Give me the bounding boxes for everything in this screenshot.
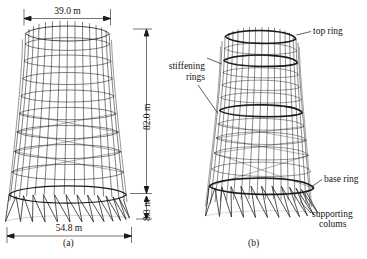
stiffening-ring-upper — [224, 55, 298, 67]
cooling-tower-figure — [0, 0, 367, 259]
tower-a-wireframe — [6, 21, 130, 222]
dim-label-top-diameter: 39.0 m — [45, 6, 90, 17]
dim-label-total-height: 82.0 m — [142, 104, 153, 130]
callout-label-stiffening-rings-line1: stiffening — [155, 61, 205, 72]
tower-a-supporting-columns — [6, 195, 130, 222]
dim-label-base-diameter: 54.8 m — [46, 223, 92, 234]
tower-a-bracing — [12, 114, 124, 173]
tower-a-rings — [9, 26, 127, 203]
leader-stiffening-lower — [198, 85, 218, 114]
dim-label-column-height: 8.3 m — [142, 199, 153, 221]
stiffening-ring-lower — [219, 105, 302, 117]
callout-label-base-ring: base ring — [324, 174, 359, 185]
panel-caption-a: (a) — [63, 238, 74, 248]
callout-label-supporting-columns-line1: supporting — [312, 209, 353, 220]
panel-caption-b: (b) — [248, 238, 259, 248]
tower-a-meridians — [9, 21, 128, 202]
callout-label-top-ring: top ring — [313, 26, 343, 37]
tower-b-wireframe — [206, 27, 319, 218]
leader-base-ring — [312, 180, 322, 187]
leader-stiffening-upper — [207, 58, 222, 64]
callout-label-stiffening-rings-line2: rings — [155, 72, 205, 83]
callout-label-supporting-columns-line2: colums — [319, 219, 346, 230]
leader-top-ring — [297, 32, 312, 36]
